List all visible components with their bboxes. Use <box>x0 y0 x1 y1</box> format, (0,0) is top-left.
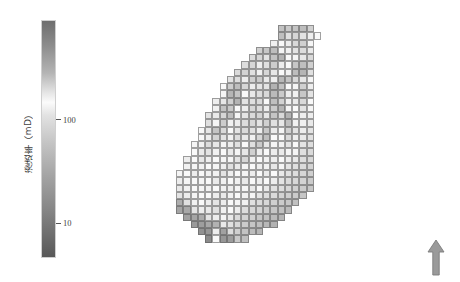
heatmap-cell <box>227 76 234 83</box>
heatmap-cell <box>263 221 270 228</box>
heatmap-cell <box>205 235 212 242</box>
heatmap-cell <box>220 105 227 112</box>
heatmap-cell <box>285 206 292 213</box>
heatmap-cell <box>292 119 299 126</box>
heatmap-cell <box>285 112 292 119</box>
heatmap-cell <box>241 127 248 134</box>
heatmap-cell <box>241 134 248 141</box>
heatmap-cell <box>198 214 205 221</box>
heatmap-cell <box>191 185 198 192</box>
heatmap-cell <box>307 47 314 54</box>
heatmap-cell <box>191 214 198 221</box>
heatmap-cell <box>249 90 256 97</box>
heatmap-cell <box>176 185 183 192</box>
heatmap-cell <box>198 163 205 170</box>
heatmap-cell <box>227 192 234 199</box>
heatmap-cell <box>256 61 263 68</box>
heatmap-cell <box>227 127 234 134</box>
heatmap-cell <box>241 206 248 213</box>
heatmap-cell <box>220 90 227 97</box>
heatmap-cell <box>270 221 277 228</box>
heatmap-cell <box>256 221 263 228</box>
heatmap-cell <box>220 170 227 177</box>
heatmap-cell <box>299 134 306 141</box>
heatmap-cell <box>249 199 256 206</box>
heatmap-cell <box>270 90 277 97</box>
heatmap-cell <box>278 214 285 221</box>
heatmap-cell <box>234 98 241 105</box>
heatmap-cell <box>292 25 299 32</box>
heatmap-cell <box>212 192 219 199</box>
heatmap-cell <box>249 141 256 148</box>
heatmap-cell <box>299 40 306 47</box>
heatmap-cell <box>220 112 227 119</box>
heatmap-cell <box>299 192 306 199</box>
heatmap-cell <box>278 61 285 68</box>
heatmap-cell <box>307 134 314 141</box>
heatmap-cell <box>256 228 263 235</box>
heatmap-cell <box>198 192 205 199</box>
heatmap-cell <box>299 119 306 126</box>
heatmap-cell <box>176 192 183 199</box>
heatmap-cell <box>263 170 270 177</box>
heatmap-cell <box>205 148 212 155</box>
heatmap-cell <box>292 156 299 163</box>
heatmap-cell <box>205 163 212 170</box>
heatmap-cell <box>205 214 212 221</box>
heatmap-cell <box>270 54 277 61</box>
heatmap-cell <box>270 185 277 192</box>
heatmap-cell <box>212 134 219 141</box>
heatmap-cell <box>212 177 219 184</box>
heatmap-cell <box>227 141 234 148</box>
heatmap-cell <box>227 214 234 221</box>
heatmap-cell <box>270 156 277 163</box>
heatmap-cell <box>212 112 219 119</box>
heatmap-cell <box>292 192 299 199</box>
heatmap-cell <box>285 47 292 54</box>
heatmap-cell <box>220 156 227 163</box>
heatmap-cell <box>205 185 212 192</box>
heatmap-cell <box>249 163 256 170</box>
heatmap-cell <box>241 105 248 112</box>
heatmap-cell <box>278 47 285 54</box>
heatmap-cell <box>270 163 277 170</box>
heatmap-cell <box>256 98 263 105</box>
heatmap-cell <box>205 170 212 177</box>
heatmap-cell <box>270 98 277 105</box>
heatmap-cell <box>285 148 292 155</box>
heatmap-cell <box>227 90 234 97</box>
heatmap-cell <box>263 156 270 163</box>
heatmap-cell <box>212 206 219 213</box>
heatmap-cell <box>220 206 227 213</box>
heatmap-cell <box>249 98 256 105</box>
heatmap-cell <box>234 69 241 76</box>
heatmap-cell <box>249 105 256 112</box>
colorbar-axis-label: 渗透率（mD） <box>14 0 40 282</box>
heatmap-cell <box>183 206 190 213</box>
heatmap-cell <box>299 105 306 112</box>
heatmap-cell <box>227 163 234 170</box>
heatmap-cell <box>278 148 285 155</box>
heatmap-cell <box>234 156 241 163</box>
heatmap-cell <box>212 185 219 192</box>
heatmap-cell <box>314 32 321 39</box>
heatmap-cell <box>299 61 306 68</box>
heatmap-cell <box>256 185 263 192</box>
heatmap-cell <box>278 192 285 199</box>
heatmap-cell <box>227 98 234 105</box>
heatmap-cell <box>234 192 241 199</box>
heatmap-cell <box>292 148 299 155</box>
heatmap-cell <box>212 199 219 206</box>
heatmap-cell <box>285 141 292 148</box>
heatmap-cell <box>307 98 314 105</box>
heatmap-cell <box>270 40 277 47</box>
heatmap-cell <box>212 119 219 126</box>
heatmap-cell <box>285 163 292 170</box>
heatmap-cell <box>256 105 263 112</box>
heatmap-cell <box>198 185 205 192</box>
heatmap-cell <box>307 32 314 39</box>
heatmap-cell <box>241 148 248 155</box>
heatmap-cell <box>292 105 299 112</box>
heatmap-cell <box>191 141 198 148</box>
heatmap-cell <box>292 199 299 206</box>
